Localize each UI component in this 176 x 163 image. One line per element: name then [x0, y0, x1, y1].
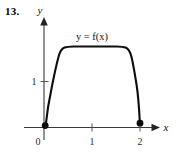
y-tick-label-1: 1 [32, 76, 37, 87]
endpoint-dot-x2 [137, 120, 144, 127]
x-tick-label-2: 2 [138, 136, 143, 147]
origin-tick-label: 0 [36, 136, 41, 147]
endpoint-dot-origin [42, 122, 49, 129]
x-axis-arrow-icon [152, 124, 161, 132]
x-axis-label: x [163, 121, 169, 133]
x-tick-label-1: 1 [90, 136, 95, 147]
figure-container: 13. y x 0 1 2 1 y = f(x) [0, 0, 176, 163]
graph-plot: y x 0 1 2 1 y = f(x) [0, 0, 176, 163]
curve-equation-label: y = f(x) [76, 31, 109, 43]
y-axis-label: y [37, 4, 43, 16]
y-axis-arrow-icon [40, 17, 48, 26]
function-curve [46, 47, 140, 128]
